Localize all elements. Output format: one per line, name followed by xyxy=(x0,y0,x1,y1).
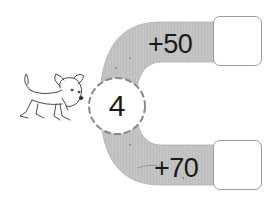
answer-box-bottom[interactable] xyxy=(213,140,262,190)
operation-label-top: +50 xyxy=(148,31,192,58)
start-value: 4 xyxy=(103,91,131,121)
answer-box-top[interactable] xyxy=(213,16,262,66)
operation-label-bottom: +70 xyxy=(154,155,198,182)
math-diagram: +50 +70 4 xyxy=(0,0,276,206)
dog-icon xyxy=(20,74,84,120)
